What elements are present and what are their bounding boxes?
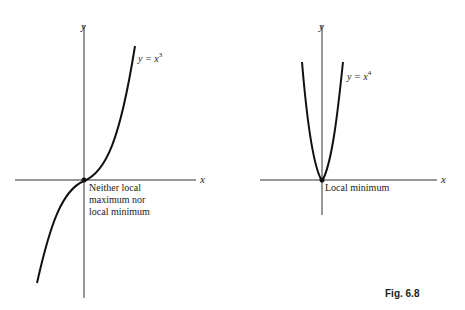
inflection-point	[82, 178, 87, 183]
minimum-point	[320, 178, 325, 183]
left-y-axis-label: y	[80, 20, 86, 32]
quartic-curve-label: y = x4	[346, 69, 372, 82]
cubic-curve-label: y = x3	[137, 51, 163, 64]
right-panel: y x y = x4 Local minimum	[260, 20, 446, 215]
inflection-annotation: Neither local maximum nor local minimum	[89, 182, 150, 217]
figure-caption: Fig. 6.8	[385, 288, 420, 299]
minimum-annotation: Local minimum	[325, 182, 389, 193]
cubic-curve	[37, 46, 135, 283]
left-panel: y x y = x3 Neither local maximum nor loc…	[15, 20, 205, 298]
left-x-axis-label: x	[199, 173, 205, 185]
right-y-axis-label: y	[318, 20, 324, 32]
right-x-axis-label: x	[440, 173, 446, 185]
figure-canvas: y x y = x3 Neither local maximum nor loc…	[0, 0, 465, 310]
